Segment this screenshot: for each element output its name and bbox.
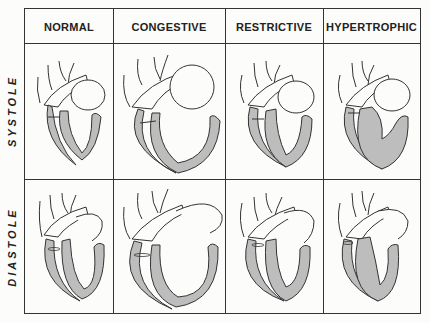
row-label-systole: SYSTOLE (2, 43, 22, 179)
heart-normal-systole (26, 45, 112, 177)
heart-restrictive-systole (228, 45, 322, 177)
heart-congestive-systole (116, 45, 224, 177)
column-header-normal: NORMAL (25, 9, 113, 44)
heart-normal-diastole (26, 181, 112, 313)
column-header-restrictive: RESTRICTIVE (225, 9, 323, 44)
heart-hypertrophic-systole (326, 45, 420, 177)
heart-congestive-diastole (116, 181, 224, 313)
column-divider (225, 9, 226, 313)
row-label-diastole: DIASTOLE (2, 179, 22, 314)
column-divider (323, 9, 324, 313)
row-divider (25, 179, 420, 180)
column-header-hypertrophic: HYPERTROPHIC (323, 9, 420, 44)
heart-hypertrophic-diastole (326, 181, 420, 313)
column-header-congestive: CONGESTIVE (113, 9, 225, 44)
heart-restrictive-diastole (228, 181, 322, 313)
column-divider (113, 9, 114, 313)
